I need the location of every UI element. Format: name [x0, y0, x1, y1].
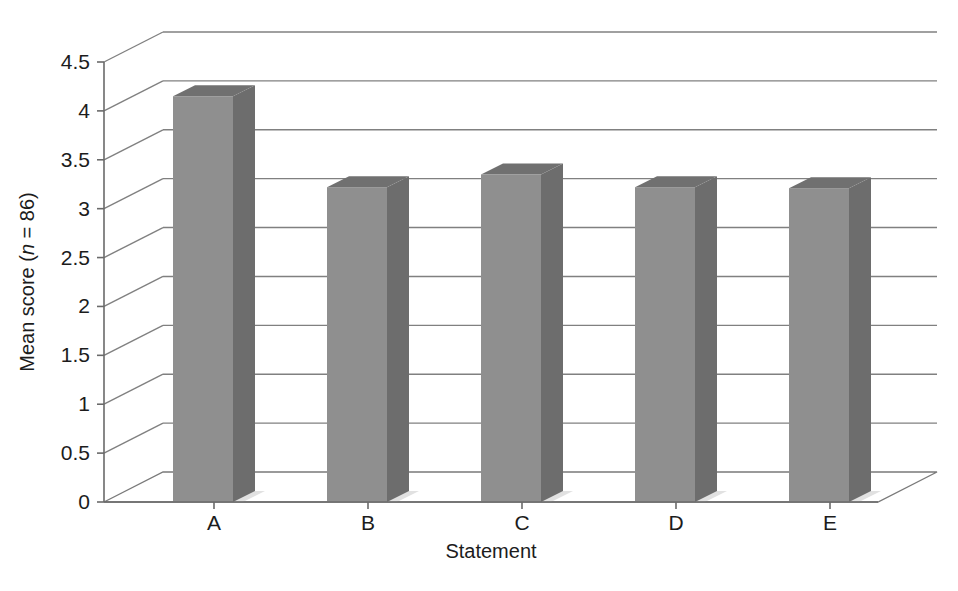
bar-column — [173, 85, 265, 502]
y-axis-tick-label: 3.5 — [61, 148, 90, 171]
bar-side-face — [387, 176, 409, 502]
x-axis-category-labels: ABCDE — [207, 511, 837, 534]
bar-side-face — [541, 163, 563, 502]
bar-front-face — [635, 187, 695, 502]
gridline-riser — [104, 276, 163, 306]
bar-front-face — [789, 188, 849, 502]
gridline-riser — [104, 32, 163, 62]
gridline-riser — [104, 130, 163, 160]
bar-series — [173, 85, 881, 502]
x-axis-category-label: D — [668, 511, 683, 534]
bar-side-face — [849, 177, 871, 502]
y-axis-title-before: Mean score ( — [16, 255, 38, 372]
bar-column — [481, 163, 573, 502]
y-axis-title-italic-n: n — [16, 244, 38, 255]
gridline-riser — [104, 374, 163, 404]
bar-side-face — [233, 85, 255, 502]
bar-column — [635, 176, 727, 502]
y-axis-tick-label: 0 — [78, 490, 90, 513]
y-axis-title-after: = 86) — [16, 192, 38, 244]
y-axis-title: Mean score (n = 86) — [16, 192, 38, 372]
y-axis-tick-label: 1 — [78, 392, 90, 415]
gridline-riser — [104, 179, 163, 209]
y-axis-tick-labels: 00.511.522.533.544.5 — [61, 50, 91, 513]
bar-front-face — [327, 187, 387, 502]
x-axis-category-label: A — [207, 511, 221, 534]
y-axis-tick-label: 4.5 — [61, 50, 90, 73]
bar-chart-canvas: 00.511.522.533.544.5 ABCDE Statement Mea… — [0, 0, 958, 591]
gridline-riser — [104, 423, 163, 453]
x-axis-category-label: C — [514, 511, 529, 534]
bar-front-face — [481, 174, 541, 502]
y-axis-tick-label: 0.5 — [61, 441, 90, 464]
gridline-riser — [104, 81, 163, 111]
x-axis-title: Statement — [445, 540, 537, 562]
bar-front-face — [173, 96, 233, 502]
y-axis-tick-label: 4 — [78, 99, 90, 122]
x-axis-category-label: B — [361, 511, 375, 534]
y-axis-tick-label: 2 — [78, 294, 90, 317]
gridline-riser — [104, 228, 163, 258]
gridline-riser — [104, 325, 163, 355]
bar-column — [789, 177, 881, 502]
x-axis-category-label: E — [823, 511, 837, 534]
bar-column — [327, 176, 419, 502]
y-axis-tick-label: 3 — [78, 197, 90, 220]
y-axis-tick-label: 1.5 — [61, 343, 90, 366]
chart-figure: 00.511.522.533.544.5 ABCDE Statement Mea… — [0, 0, 958, 591]
y-axis-tick-label: 2.5 — [61, 246, 90, 269]
bar-side-face — [695, 176, 717, 502]
